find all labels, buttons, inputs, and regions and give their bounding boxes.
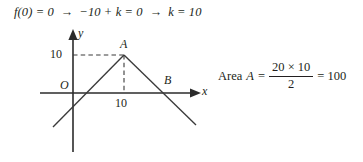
x-axis-label: x	[202, 85, 207, 97]
area-fraction: 20 × 10 2	[269, 61, 313, 91]
x-axis-tick-label: 10	[115, 97, 127, 109]
area-variable: A	[246, 69, 254, 84]
area-label: Area	[218, 69, 242, 84]
equation-step-2: −10 + k = 0	[79, 5, 142, 20]
equation-step-1: f(0) = 0	[14, 5, 54, 20]
origin-label: O	[60, 79, 69, 91]
vertex-point-label: A	[120, 38, 127, 50]
area-result: 100	[327, 69, 346, 84]
y-axis-arrow-icon	[68, 29, 77, 40]
y-axis	[68, 29, 77, 152]
graph-figure: y x O A B 10 10	[30, 22, 220, 162]
area-equals-sign-2: =	[317, 69, 324, 84]
equation-line: f(0) = 0 → −10 + k = 0 → k = 10	[14, 3, 274, 21]
area-formula: Area A = 20 × 10 2 = 100	[218, 59, 358, 93]
equation-step-3: k = 10	[168, 5, 201, 20]
fraction-numerator: 20 × 10	[269, 61, 313, 76]
area-equals-sign-1: =	[258, 69, 265, 84]
dashed-guides	[73, 55, 124, 93]
curve-right-branch	[124, 55, 196, 125]
x-axis-arrow-icon	[190, 88, 201, 97]
fraction-denominator: 2	[285, 77, 297, 92]
worksheet-page: f(0) = 0 → −10 + k = 0 → k = 10	[0, 0, 363, 162]
y-axis-tick-label: 10	[50, 48, 62, 60]
root-point-label: B	[164, 74, 171, 86]
y-axis-label: y	[78, 27, 83, 39]
implication-arrow-2-icon: →	[150, 5, 163, 20]
implication-arrow-1-icon: →	[61, 5, 74, 20]
